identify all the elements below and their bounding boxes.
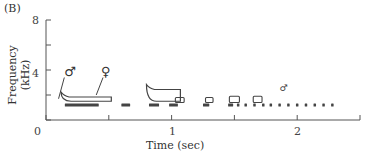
male-note [278,104,281,107]
male-note [253,104,256,107]
male-note [314,104,317,107]
male-note [270,104,273,107]
male-note [287,104,290,107]
male-note [121,104,130,107]
male-note [322,104,325,107]
spectrogram-plot: ♂♀♂ [0,0,376,159]
male-note [65,104,99,107]
male-note [149,104,159,107]
female-note [229,96,239,102]
male-note [244,104,247,107]
male-note [296,104,299,107]
male-note [331,104,334,107]
male-note [228,104,233,107]
female-note [206,98,214,103]
female-note [253,96,262,102]
small-male-symbol: ♂ [280,83,288,93]
male-note [203,104,209,107]
female-leader-line [96,78,103,96]
male-note [237,104,240,107]
male-note [169,104,178,107]
female-symbol: ♀ [101,64,111,79]
female-note [61,92,111,101]
male-note [305,104,308,107]
male-note [262,104,265,107]
male-symbol: ♂ [64,64,76,79]
